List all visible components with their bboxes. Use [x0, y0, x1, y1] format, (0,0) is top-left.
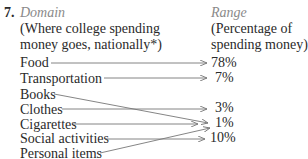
mapping-arrows	[0, 0, 308, 159]
arrow-personal-items	[100, 128, 210, 153]
arrow-books	[54, 94, 208, 123]
